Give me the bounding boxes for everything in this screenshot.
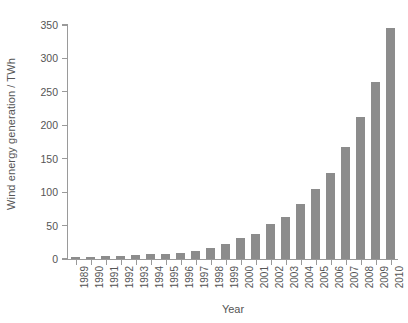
x-tick-label: 2004: [305, 266, 315, 288]
y-tick-mark: [62, 91, 68, 92]
x-tick-mark: [286, 260, 287, 265]
y-tick-mark: [62, 24, 68, 25]
bar: [326, 173, 334, 259]
x-tick-label: 2010: [395, 266, 405, 288]
x-tick-label: 1996: [185, 266, 195, 288]
wind-energy-bar-chart: Wind energy generation / TWh 05010015020…: [0, 0, 408, 323]
y-tick-label: 350: [20, 20, 58, 31]
x-tick-label: 1997: [200, 266, 210, 288]
x-tick-mark: [76, 260, 77, 265]
bar: [71, 257, 79, 259]
x-axis-title: Year: [68, 303, 398, 315]
x-tick-label: 1993: [140, 266, 150, 288]
y-tick-label: 100: [20, 187, 58, 198]
x-tick-mark: [361, 260, 362, 265]
y-axis-tick-labels: 050100150200250300350: [20, 0, 58, 323]
bar: [206, 248, 214, 259]
bar: [101, 256, 109, 259]
x-tick-mark: [91, 260, 92, 265]
y-tick-label: 150: [20, 153, 58, 164]
x-tick-mark: [166, 260, 167, 265]
bar: [311, 189, 319, 259]
bars-container: [68, 25, 398, 259]
bar: [86, 257, 94, 259]
x-tick-mark: [106, 260, 107, 265]
x-tick-mark: [196, 260, 197, 265]
bar: [371, 82, 379, 259]
bar: [266, 224, 274, 259]
bar: [161, 254, 169, 259]
y-tick-label: 0: [20, 254, 58, 265]
x-tick-mark: [346, 260, 347, 265]
y-tick-mark: [62, 58, 68, 59]
y-axis-title: Wind energy generation / TWh: [2, 0, 20, 268]
x-tick-label: 1999: [230, 266, 240, 288]
x-tick-mark: [181, 260, 182, 265]
y-tick-label: 50: [20, 220, 58, 231]
bar: [386, 28, 394, 259]
y-tick-label: 250: [20, 87, 58, 98]
x-tick-label: 2007: [350, 266, 360, 288]
bar: [251, 234, 259, 259]
x-tick-label: 2000: [245, 266, 255, 288]
bar: [221, 244, 229, 259]
x-tick-label: 2003: [290, 266, 300, 288]
bar: [281, 217, 289, 259]
y-tick-mark: [62, 192, 68, 193]
x-tick-mark: [241, 260, 242, 265]
x-tick-label: 2002: [275, 266, 285, 288]
x-tick-label: 1989: [80, 266, 90, 288]
x-tick-mark: [211, 260, 212, 265]
bar: [191, 251, 199, 259]
x-tick-label: 1991: [110, 266, 120, 288]
x-tick-label: 1992: [125, 266, 135, 288]
y-tick-mark: [62, 125, 68, 126]
x-tick-label: 2008: [365, 266, 375, 288]
bar: [356, 117, 364, 259]
y-tick-mark: [62, 258, 68, 259]
x-tick-label: 2001: [260, 266, 270, 288]
y-tick-label: 300: [20, 53, 58, 64]
x-axis-tick-labels: 1989199019911992199319941995199619971998…: [68, 266, 398, 306]
x-tick-label: 1990: [95, 266, 105, 288]
y-tick-mark: [62, 158, 68, 159]
bar: [176, 253, 184, 259]
x-tick-mark: [136, 260, 137, 265]
y-axis-title-text: Wind energy generation / TWh: [5, 58, 17, 210]
x-tick-label: 2006: [335, 266, 345, 288]
x-tick-mark: [391, 260, 392, 265]
x-tick-mark: [271, 260, 272, 265]
x-tick-label: 1998: [215, 266, 225, 288]
bar: [131, 255, 139, 259]
x-tick-mark: [376, 260, 377, 265]
x-tick-mark: [121, 260, 122, 265]
x-tick-label: 2009: [380, 266, 390, 288]
x-tick-mark: [226, 260, 227, 265]
bar: [341, 147, 349, 259]
y-tick-mark: [62, 225, 68, 226]
y-tick-label: 200: [20, 120, 58, 131]
x-tick-label: 1994: [155, 266, 165, 288]
x-tick-mark: [316, 260, 317, 265]
x-tick-mark: [301, 260, 302, 265]
bar: [116, 256, 124, 259]
bar: [146, 254, 154, 259]
x-tick-label: 1995: [170, 266, 180, 288]
x-tick-mark: [256, 260, 257, 265]
bar: [296, 204, 304, 259]
x-tick-mark: [331, 260, 332, 265]
bar: [236, 238, 244, 259]
x-tick-label: 2005: [320, 266, 330, 288]
x-tick-mark: [151, 260, 152, 265]
